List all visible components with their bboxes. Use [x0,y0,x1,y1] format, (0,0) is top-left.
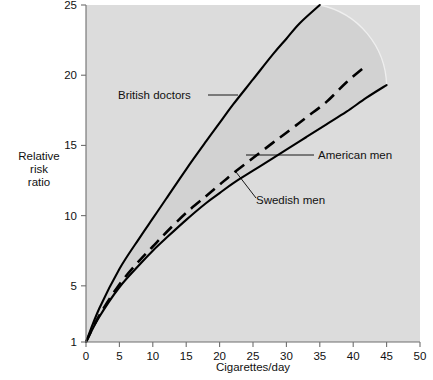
x-tick-label: 50 [414,350,427,362]
y-tick-label: 1 [71,336,77,348]
y-tick-label: 15 [64,139,77,151]
x-axis-title: Cigarettes/day [216,361,290,373]
y-tick-label: 20 [64,69,77,81]
x-tick-label: 10 [146,350,159,362]
x-tick-label: 35 [313,350,326,362]
y-tick-label: 10 [64,210,77,222]
label-swedish-men: Swedish men [256,194,325,206]
y-axis-ticks [81,5,86,342]
y-axis-title-line-1: Relative [18,150,60,162]
x-tick-label: 0 [83,350,89,362]
y-tick-label: 25 [64,0,77,11]
label-american-men: American men [318,149,392,161]
x-tick-label: 40 [347,350,360,362]
y-tick-label: 5 [71,280,77,292]
x-tick-label: 15 [180,350,193,362]
y-axis-tick-labels: 1510152025 [64,0,77,348]
chart-svg: 1510152025 05101520253035404550 Cigarett… [0,0,433,380]
y-axis-title-line-2: risk [30,163,48,175]
x-tick-label: 5 [116,350,122,362]
y-axis-title-line-3: ratio [28,176,50,188]
label-british-doctors: British doctors [118,89,191,101]
x-axis-ticks [86,342,420,347]
chart-figure: 1510152025 05101520253035404550 Cigarett… [0,0,433,380]
x-tick-label: 45 [380,350,393,362]
